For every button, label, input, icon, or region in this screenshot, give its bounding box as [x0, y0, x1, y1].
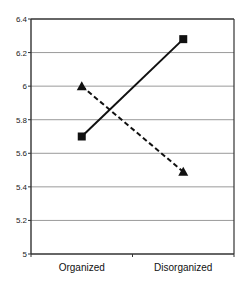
- line-chart: 55.25.45.65.866.26.4 OrganizedDisorganiz…: [0, 0, 245, 288]
- x-category-label: Organized: [59, 262, 105, 273]
- triangle-marker: [178, 167, 188, 176]
- y-tick-label: 5.6: [16, 149, 28, 158]
- square-marker: [78, 133, 86, 141]
- y-tick-label: 6.4: [16, 15, 28, 24]
- series-line: [82, 86, 184, 172]
- x-axis-category-labels: OrganizedDisorganized: [59, 262, 213, 273]
- x-category-label: Disorganized: [154, 262, 212, 273]
- y-tick-label: 5.8: [16, 116, 28, 125]
- y-tick-label: 5: [23, 250, 28, 259]
- plot-frame: [28, 19, 234, 257]
- y-tick-label: 5.4: [16, 183, 28, 192]
- y-tick-label: 5.2: [16, 216, 28, 225]
- data-series: [77, 35, 189, 176]
- series-line: [82, 39, 184, 136]
- gridlines: [31, 53, 234, 221]
- y-axis-tick-labels: 55.25.45.65.866.26.4: [16, 15, 28, 259]
- y-tick-label: 6.2: [16, 49, 28, 58]
- square-marker: [179, 35, 187, 43]
- y-tick-label: 6: [23, 82, 28, 91]
